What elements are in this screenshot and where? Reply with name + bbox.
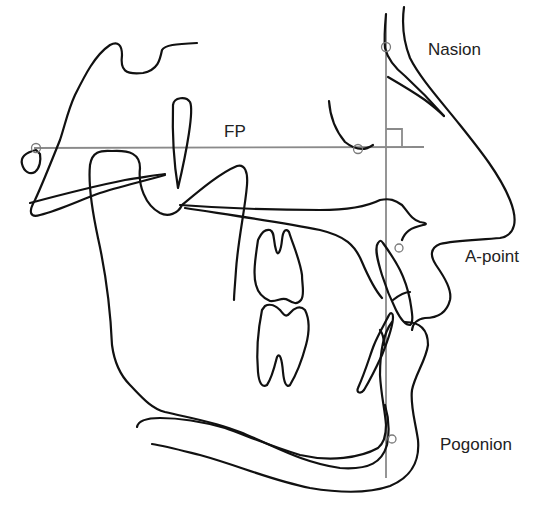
orbit-rim: [329, 101, 373, 149]
cephalometric-diagram: FP Nasion A-point Pogonion: [0, 0, 545, 505]
a-point-landmark: [395, 244, 403, 252]
ear-rod-outline: [22, 150, 41, 173]
pterygomaxillary-fissure: [173, 98, 191, 188]
symphysis-outline: [137, 322, 392, 459]
upper-incisor: [376, 241, 412, 325]
pogonion-landmark: [388, 435, 396, 443]
upper-molar: [255, 230, 304, 303]
nasion-label: Nasion: [428, 40, 481, 59]
lower-incisor: [357, 313, 393, 392]
fp-label: FP: [224, 122, 246, 141]
lower-molar: [257, 305, 308, 386]
right-angle-marker: [386, 129, 402, 146]
a-point-label: A-point: [465, 247, 519, 266]
palatal-plane-upper: [180, 199, 426, 240]
pogonion-label: Pogonion: [440, 435, 512, 454]
palatal-plane-lower: [185, 208, 382, 298]
mandibular-ramus-outline: [89, 151, 247, 300]
upper-incisor-crown-line: [393, 292, 410, 300]
